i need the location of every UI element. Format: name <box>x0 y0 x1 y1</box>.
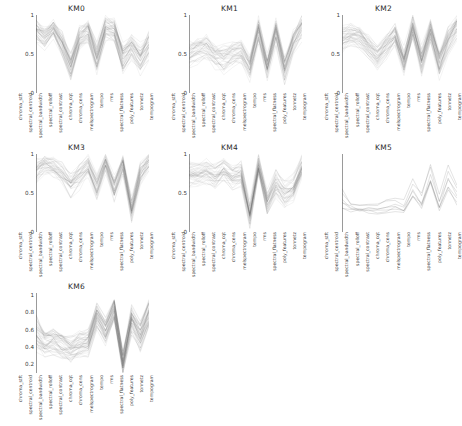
plot-area: 00.51 <box>324 15 457 93</box>
y-tick-label: 1 <box>30 151 34 157</box>
panel-km5: KM5chroma_stftspectral_centroidspectral_… <box>306 139 461 278</box>
panel-km2: KM200.51chroma_stftspectral_centroidspec… <box>306 0 461 139</box>
x-tick-label: rms <box>109 93 114 102</box>
x-tick-label: chroma_cqt <box>68 375 73 402</box>
plot-area: 00.51 <box>171 154 302 232</box>
y-axis: 00.51 <box>324 15 342 93</box>
x-tick-label: spectral_rolloff <box>48 93 53 127</box>
x-tick-label: tempo <box>406 232 411 247</box>
panel-title: KM3 <box>0 143 153 152</box>
x-tick-label: spectral_rolloff <box>48 232 53 266</box>
x-axis-labels: chroma_stftspectral_centroidspectral_ban… <box>18 93 149 141</box>
y-tick-label: 0.5 <box>25 190 34 196</box>
x-tick-label: spectral_rolloff <box>48 375 53 409</box>
lines-canvas <box>189 15 302 93</box>
x-tick-label: poly_features <box>129 93 134 124</box>
x-tick-label: spectral_bandwidth <box>38 93 43 138</box>
x-tick-label: chroma_stft <box>324 93 329 120</box>
x-tick-label: chroma_cqt <box>221 93 226 120</box>
panel-km6: KM60.20.40.60.81chroma_stftspectral_cent… <box>0 278 153 426</box>
x-tick-label: spectral_contrast <box>58 93 63 133</box>
x-tick-label: tonnetz <box>139 232 144 249</box>
x-tick-label: poly_features <box>437 93 442 124</box>
x-tick-label: spectral_bandwidth <box>38 375 43 420</box>
x-tick-label: chroma_stft <box>171 232 176 259</box>
plot-area: 0.20.40.60.81 <box>18 293 149 373</box>
x-tick-label: spectral_contrast <box>211 93 216 133</box>
x-tick-label: tempo <box>252 93 257 108</box>
x-tick-label: spectral_flatness <box>272 93 277 132</box>
x-tick-label: rms <box>416 93 421 102</box>
x-tick-label: spectral_centroid <box>28 375 33 415</box>
x-tick-label: tonnetz <box>447 232 452 249</box>
plot-area <box>324 154 457 232</box>
x-tick-label: rms <box>109 232 114 241</box>
panel-title: KM4 <box>153 143 306 152</box>
y-tick-label: 1 <box>30 12 34 18</box>
lines-canvas <box>36 15 149 93</box>
x-tick-label: chroma_stft <box>171 93 176 120</box>
panel-title: KM6 <box>0 282 153 291</box>
y-tick-label: 1 <box>183 151 187 157</box>
x-tick-label: tonnetz <box>447 93 452 110</box>
x-axis-labels: chroma_stftspectral_centroidspectral_ban… <box>18 232 149 280</box>
y-tick-label: 0.4 <box>25 344 34 350</box>
x-tick-label: tempogram <box>149 375 154 402</box>
x-tick-label: melspectrogram <box>89 232 94 270</box>
y-axis: 00.51 <box>171 154 189 232</box>
x-tick-label: chroma_cens <box>231 93 236 123</box>
panel-title: KM0 <box>0 4 153 13</box>
x-tick-label: spectral_bandwidth <box>191 232 196 277</box>
x-axis-labels: chroma_stftspectral_centroidspectral_ban… <box>18 375 149 423</box>
x-tick-label: chroma_cqt <box>221 232 226 259</box>
x-tick-label: melspectrogram <box>396 93 401 131</box>
x-tick-label: chroma_stft <box>324 232 329 259</box>
lines-canvas <box>189 154 302 232</box>
x-tick-label: spectral_centroid <box>334 232 339 272</box>
x-tick-label: chroma_cqt <box>68 93 73 120</box>
y-axis: 00.51 <box>171 15 189 93</box>
lines-canvas <box>342 154 457 232</box>
x-tick-label: tempo <box>99 93 104 108</box>
x-tick-label: spectral_contrast <box>365 93 370 133</box>
lines-canvas <box>36 154 149 232</box>
x-tick-label: melspectrogram <box>242 93 247 131</box>
x-tick-label: tempo <box>99 375 104 390</box>
x-tick-label: rms <box>262 93 267 102</box>
y-tick-label: 0.6 <box>25 327 34 333</box>
x-tick-label: tempogram <box>457 93 462 120</box>
x-tick-label: spectral_flatness <box>119 375 124 414</box>
x-tick-label: chroma_stft <box>18 232 23 259</box>
x-tick-label: spectral_contrast <box>58 375 63 415</box>
x-axis-labels: chroma_stftspectral_centroidspectral_ban… <box>324 232 457 280</box>
x-tick-label: tonnetz <box>139 93 144 110</box>
x-tick-label: rms <box>416 232 421 241</box>
y-tick-label: 0.5 <box>178 51 187 57</box>
x-tick-label: tempo <box>406 93 411 108</box>
x-tick-label: spectral_flatness <box>426 232 431 271</box>
x-tick-label: spectral_flatness <box>272 232 277 271</box>
x-tick-label: chroma_cqt <box>375 232 380 259</box>
x-tick-label: chroma_cens <box>385 93 390 123</box>
y-tick-label: 0.5 <box>178 190 187 196</box>
x-tick-label: spectral_flatness <box>119 93 124 132</box>
x-tick-label: spectral_centroid <box>28 232 33 272</box>
y-tick-label: 1 <box>183 12 187 18</box>
x-tick-label: spectral_rolloff <box>355 93 360 127</box>
x-axis-labels: chroma_stftspectral_centroidspectral_ban… <box>171 232 302 280</box>
x-axis-labels: chroma_stftspectral_centroidspectral_ban… <box>171 93 302 141</box>
panel-km1: KM100.51chroma_stftspectral_centroidspec… <box>153 0 306 139</box>
x-tick-label: chroma_cqt <box>68 232 73 259</box>
x-tick-label: melspectrogram <box>89 93 94 131</box>
x-tick-label: spectral_centroid <box>181 232 186 272</box>
x-tick-label: melspectrogram <box>89 375 94 413</box>
x-tick-label: chroma_stft <box>18 93 23 120</box>
x-tick-label: melspectrogram <box>396 232 401 270</box>
x-tick-label: tonnetz <box>139 375 144 392</box>
x-tick-label: spectral_rolloff <box>201 232 206 266</box>
x-tick-label: spectral_flatness <box>119 232 124 271</box>
x-tick-label: spectral_bandwidth <box>191 93 196 138</box>
x-axis-labels: chroma_stftspectral_centroidspectral_ban… <box>324 93 457 141</box>
x-tick-label: tempo <box>252 232 257 247</box>
